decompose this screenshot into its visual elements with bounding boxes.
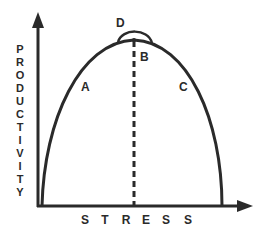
svg-text:P: P [16,43,23,55]
svg-text:C: C [16,108,24,120]
svg-text:T: T [17,121,24,133]
svg-text:T: T [101,213,109,227]
label-d: D [116,16,125,30]
svg-text:V: V [16,147,24,159]
x-axis-arrow-icon [237,200,253,212]
svg-text:D: D [16,82,24,94]
svg-text:R: R [16,56,24,68]
productivity-curve [42,40,222,206]
diagram-canvas: D B A C P R O D U C T I V I T Y S T R E … [0,0,262,236]
label-a: A [81,80,90,94]
svg-text:Y: Y [16,186,24,198]
svg-text:T: T [17,173,24,185]
svg-text:O: O [16,69,25,81]
svg-text:R: R [122,213,131,227]
label-b: B [140,50,149,64]
svg-text:I: I [18,134,21,146]
svg-text:S: S [81,213,89,227]
y-axis-arrow-icon [32,12,44,28]
peak-point [132,38,136,42]
svg-text:E: E [142,213,150,227]
label-c: C [179,80,188,94]
x-axis-label: S T R E S S [81,213,192,227]
y-axis-label: P R O D U C T I V I T Y [16,43,25,198]
stress-productivity-diagram: D B A C P R O D U C T I V I T Y S T R E … [0,0,262,236]
svg-text:U: U [16,95,24,107]
svg-text:S: S [184,213,192,227]
svg-text:I: I [18,160,21,172]
svg-text:S: S [162,213,170,227]
